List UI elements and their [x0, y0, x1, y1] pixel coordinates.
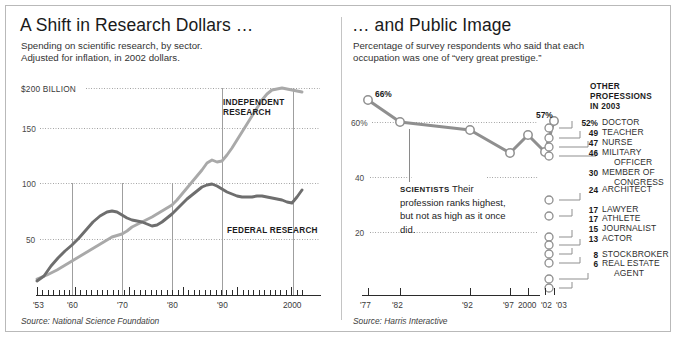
other-profession-value: 52%: [578, 118, 598, 128]
right-chart-xlabel-77: '77: [360, 300, 371, 310]
other-profession-value: 49: [578, 128, 598, 138]
right-chart-xlabel-97: '97: [503, 300, 514, 310]
right-chart-tick: [400, 288, 401, 295]
right-chart-xlabel-03: '03: [556, 300, 567, 310]
other-profession-name: ARCHITECT: [602, 185, 652, 195]
right-chart-start-label: 66%: [375, 89, 392, 99]
other-professions-title-line1: OTHER: [590, 82, 652, 92]
other-profession-row: 6REAL ESTATEAGENT: [578, 259, 670, 279]
right-chart-tick: [470, 288, 471, 295]
other-profession-value: 46: [578, 148, 598, 158]
right-chart-markers: [364, 96, 558, 157]
right-chart-tick: [554, 288, 555, 295]
other-profession-name-line1: ACTOR: [602, 234, 632, 244]
other-profession-value: 15: [578, 224, 598, 234]
other-profession-name: MILITARYOFFICER: [602, 148, 652, 168]
right-chart-xlabel-2000: 2000: [518, 300, 536, 310]
other-profession-row: 24ARCHITECT: [578, 185, 670, 205]
right-chart-plot: [0, 0, 676, 337]
right-chart-annotation-pointer: [409, 129, 410, 182]
other-profession-name: ACTOR: [602, 234, 632, 244]
right-chart-xlabel-92: '92: [462, 300, 473, 310]
other-profession-row: 46MILITARYOFFICER: [578, 148, 670, 168]
right-chart-annotation: SCIENTISTS Their profession ranks highes…: [400, 182, 512, 236]
right-chart-end-label: 57%: [536, 110, 553, 120]
other-profession-name: REAL ESTATEAGENT: [602, 259, 660, 279]
right-chart-tick: [528, 288, 529, 295]
right-chart-line-scientists: [368, 100, 554, 153]
other-professions-title: OTHER PROFESSIONS IN 2003: [590, 82, 652, 112]
annotation-lead: SCIENTISTS: [400, 185, 449, 194]
other-profession-value: 47: [578, 138, 598, 148]
right-chart-xaxis: [362, 295, 540, 296]
right-chart-tick: [510, 288, 511, 295]
right-chart-source: Source: Harris Interactive: [353, 316, 448, 326]
other-profession-name-line1: ARCHITECT: [602, 185, 652, 195]
other-profession-value: 17: [578, 214, 598, 224]
infographic-root: A Shift in Research Dollars … Spending o…: [0, 0, 676, 337]
other-profession-name-line2: AGENT: [602, 269, 660, 279]
right-chart-tick: [545, 288, 546, 295]
right-chart-xlabel-02: '02: [541, 300, 552, 310]
other-professions-title-line2: PROFESSIONS: [590, 92, 652, 102]
right-chart-xlabel-82: '82: [392, 300, 403, 310]
other-profession-value: 6: [578, 259, 598, 269]
right-chart-other-markers: [545, 124, 553, 292]
other-profession-value: 30: [578, 168, 598, 178]
other-professions-title-line3: IN 2003: [590, 102, 652, 112]
other-profession-value: 13: [578, 234, 598, 244]
right-chart-tick: [368, 288, 369, 295]
other-profession-value: 24: [578, 185, 598, 195]
